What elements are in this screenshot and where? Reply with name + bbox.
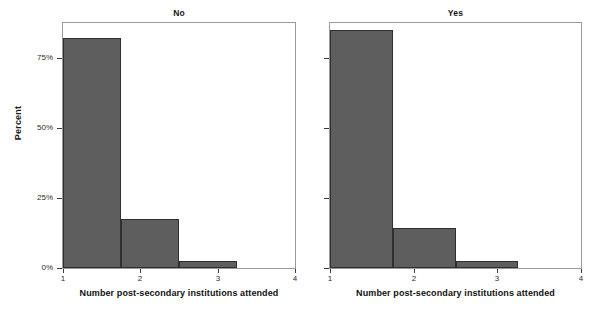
x-axis-tick — [140, 269, 141, 273]
x-axis-tick-label: 1 — [56, 274, 70, 283]
x-axis-tick — [581, 269, 582, 273]
y-axis-tick-label: 0% — [20, 263, 53, 272]
panel-title-yes: Yes — [329, 8, 582, 18]
x-axis-tick-label: 4 — [288, 274, 302, 283]
y-axis-tick — [324, 128, 329, 129]
bars-yes — [330, 23, 581, 268]
x-axis-tick — [414, 269, 415, 273]
y-axis-tick — [57, 128, 62, 129]
panel-title-no: No — [62, 8, 296, 18]
x-axis-tick — [330, 269, 331, 273]
x-axis-tick-label: 4 — [574, 274, 588, 283]
histogram-figure: Percent No 0%25%50%75% 1234 Number post-… — [0, 0, 610, 310]
bar — [330, 30, 393, 268]
bar — [456, 261, 519, 268]
x-axis-tick-label: 2 — [407, 274, 421, 283]
x-axis-title-yes: Number post-secondary institutions atten… — [329, 288, 582, 298]
x-axis-tick-label: 3 — [211, 274, 225, 283]
y-axis-tick — [324, 58, 329, 59]
x-axis-tick-label: 3 — [490, 274, 504, 283]
x-axis-title-no: Number post-secondary institutions atten… — [62, 288, 296, 298]
y-axis-tick — [324, 198, 329, 199]
y-axis-tick — [57, 268, 62, 269]
x-axis-tick — [497, 269, 498, 273]
y-axis-tick — [57, 198, 62, 199]
bar — [179, 261, 237, 268]
x-axis-tick-label: 1 — [323, 274, 337, 283]
bar — [121, 219, 179, 268]
y-axis-tick-label: 50% — [20, 123, 53, 132]
bar — [63, 38, 121, 268]
bar — [393, 228, 456, 268]
x-axis-tick — [218, 269, 219, 273]
y-axis-tick — [57, 58, 62, 59]
bars-no — [63, 23, 295, 268]
x-axis-tick — [295, 269, 296, 273]
x-axis-tick-label: 2 — [133, 274, 147, 283]
y-axis-tick-label: 25% — [20, 193, 53, 202]
y-axis-tick — [324, 268, 329, 269]
plot-area-no — [62, 22, 296, 269]
plot-area-yes — [329, 22, 582, 269]
panel-no: No 0%25%50%75% 1234 Number post-secondar… — [0, 0, 305, 310]
x-axis-tick — [63, 269, 64, 273]
panel-yes: Yes 1234 Number post-secondary instituti… — [305, 0, 610, 310]
y-axis-tick-label: 75% — [20, 53, 53, 62]
